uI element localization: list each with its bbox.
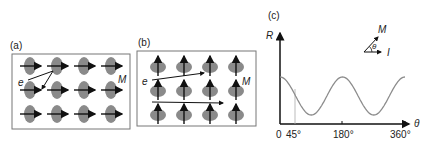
spin-site [150,80,166,100]
panel-b-label: (b) [138,37,150,48]
tick-label-0: 0 [276,129,282,140]
electron-path-b2 [152,102,223,103]
spin-site [74,105,95,123]
inset-M-label: M [378,24,387,35]
y-axis-label: R [266,30,273,41]
spin-site [150,56,166,76]
inset-I-label: I [387,47,390,58]
spin-grid-b [150,56,244,124]
figure: (a) e M (b) e M (c) R θ 0 45° 180° 36 [0,0,429,148]
electron-label-b: e [142,76,148,87]
inset-theta-label: θ [372,42,377,51]
spin-site [176,56,192,76]
tick-label-180: 180° [333,129,354,140]
spin-site [150,104,166,124]
electron-label-a: e [18,77,24,88]
spin-site [20,57,41,75]
x-axis-label: θ [414,118,420,129]
resistance-curve [280,77,405,115]
spin-site [74,57,95,75]
spin-site [228,56,244,76]
panel-a: (a) e M [10,40,130,129]
panel-b: (b) e M [137,37,256,126]
spin-site [202,104,218,124]
spin-site [202,56,218,76]
angle-inset: M θ I [364,24,390,58]
electron-path-a2 [42,71,53,89]
spin-site [176,80,192,100]
magnetization-label-b: M [242,76,251,87]
spin-site [47,105,68,123]
panel-a-label: (a) [10,40,22,51]
electron-path-b1 [152,73,204,80]
spin-site [228,104,244,124]
magnetization-label-a: M [118,74,127,85]
spin-site [74,81,95,99]
spin-site [176,104,192,124]
tick-label-45: 45° [286,129,301,140]
spin-site [101,57,122,75]
spin-site [101,105,122,123]
panel-c-label: (c) [268,10,280,21]
tick-label-360: 360° [390,129,411,140]
panel-c: (c) R θ 0 45° 180° 360° M θ I [266,10,420,140]
spin-site [20,105,41,123]
spin-site [202,80,218,100]
spin-grid-a [20,57,122,123]
spin-site [47,81,68,99]
